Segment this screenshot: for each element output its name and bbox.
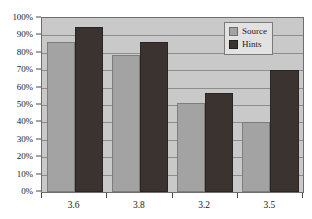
y-tick-label: 90% (17, 30, 33, 39)
y-tick-label: 20% (17, 152, 33, 161)
y-tick-label: 40% (17, 117, 33, 126)
legend-item-source[interactable]: Source (229, 25, 267, 38)
bar-source-3.8[interactable] (112, 55, 140, 193)
bar-source-3.5[interactable] (242, 122, 270, 192)
y-tick-label: 0% (21, 187, 33, 196)
y-axis: 0%10%20%30%40%50%60%70%80%90%100% (0, 0, 41, 219)
hints-swatch-icon (229, 40, 238, 49)
y-tick-label: 50% (17, 100, 33, 109)
bar-chart-figure: 0%10%20%30%40%50%60%70%80%90%100% 3.63.8… (0, 0, 312, 219)
x-tick-mark (302, 193, 303, 198)
bar-group-3.6 (47, 18, 103, 192)
x-tick-label-3.8: 3.8 (133, 200, 145, 210)
y-tick-label: 80% (17, 47, 33, 56)
legend-label: Hints (242, 40, 262, 49)
x-tick-mark (41, 193, 42, 198)
legend-item-hints[interactable]: Hints (229, 38, 267, 51)
x-tick-label-3.6: 3.6 (68, 200, 80, 210)
x-tick-label-3.5: 3.5 (263, 200, 275, 210)
bar-hints-3.2[interactable] (205, 93, 233, 192)
source-swatch-icon (229, 27, 238, 36)
bar-hints-3.5[interactable] (270, 70, 298, 192)
y-tick-label: 10% (17, 169, 33, 178)
y-tick-label: 60% (17, 82, 33, 91)
bar-hints-3.6[interactable] (75, 27, 103, 192)
x-tick-mark (106, 193, 107, 198)
bar-hints-3.8[interactable] (140, 42, 168, 192)
y-tick-label: 100% (12, 13, 33, 22)
x-tick-label-3.2: 3.2 (198, 200, 210, 210)
bar-source-3.6[interactable] (47, 42, 75, 192)
chart-legend: SourceHints (224, 22, 273, 55)
bar-group-3.8 (112, 18, 168, 192)
x-tick-mark (172, 193, 173, 198)
legend-label: Source (242, 27, 267, 36)
y-tick-label: 70% (17, 65, 33, 74)
x-axis: 3.63.83.23.5 (41, 193, 304, 219)
x-tick-mark (237, 193, 238, 198)
y-tick-label: 30% (17, 134, 33, 143)
bar-source-3.2[interactable] (177, 103, 205, 192)
